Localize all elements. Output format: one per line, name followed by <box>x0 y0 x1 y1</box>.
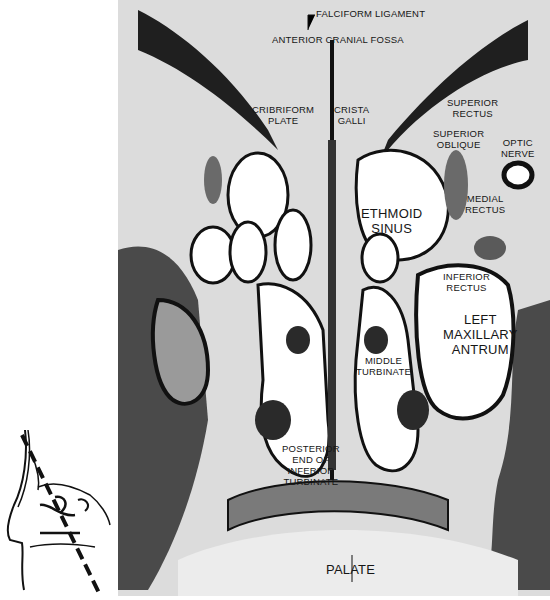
label-middle-turbinate: MIDDLE TURBINATE <box>356 355 411 377</box>
label-cribriform-plate: CRIBRIFORM PLATE <box>252 104 314 126</box>
histology-section <box>118 0 550 596</box>
label-palate: PALATE <box>326 562 375 577</box>
label-left-maxillary-antrum: LEFT MAXILLARY ANTRUM <box>443 312 518 357</box>
label-posterior-end-inferior-turbinate: POSTERIOR END OF INFERIOR TURBINATE <box>282 443 340 487</box>
label-superior-rectus: SUPERIOR RECTUS <box>447 97 498 119</box>
label-falciform-ligament: FALCIFORM LIGAMENT <box>316 8 425 19</box>
label-medial-rectus: MEDIAL RECTUS <box>465 193 505 215</box>
label-anterior-cranial-fossa: ANTERIOR CRANIAL FOSSA <box>272 34 404 45</box>
label-inferior-rectus: INFERIOR RECTUS <box>443 271 490 293</box>
sagittal-orientation-inset <box>0 425 118 600</box>
section-illustration <box>118 0 550 596</box>
label-ethmoid-sinus: ETHMOID SINUS <box>361 206 422 236</box>
label-superior-oblique: SUPERIOR OBLIQUE <box>433 128 484 150</box>
label-optic-nerve: OPTIC NERVE <box>501 137 535 159</box>
head-profile-icon <box>0 425 118 600</box>
label-crista-galli: CRISTA GALLI <box>334 104 369 126</box>
